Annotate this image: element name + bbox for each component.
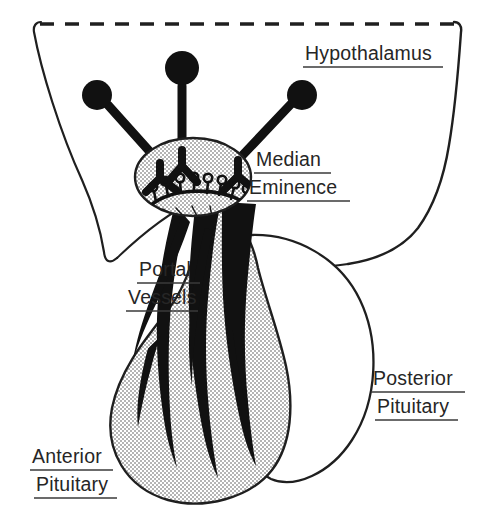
label-median-eminence: Median Eminence <box>247 148 350 201</box>
neuron-right-soma <box>287 80 317 110</box>
label-anterior-pituitary-line1: Anterior <box>32 445 102 467</box>
capillary-stalk-5 <box>207 182 208 193</box>
label-hypothalamus: Hypothalamus <box>303 42 443 67</box>
label-median-eminence-line2: Eminence <box>249 176 337 198</box>
pituitary-diagram: Hypothalamus Median Eminence Portal Vess… <box>0 0 490 529</box>
label-portal-vessels-line1: Portal <box>139 258 191 280</box>
label-posterior-pituitary-line1: Posterior <box>373 367 453 389</box>
label-hypothalamus-text: Hypothalamus <box>305 42 432 64</box>
neuron-center-soma <box>165 51 199 85</box>
neuron-somas <box>82 51 317 110</box>
neuron-left-soma <box>82 80 112 110</box>
label-median-eminence-line1: Median <box>256 148 321 170</box>
label-posterior-pituitary: Posterior Pituitary <box>371 367 465 420</box>
label-portal-vessels-line2: Vessels <box>128 286 197 308</box>
label-anterior-pituitary: Anterior Pituitary <box>30 445 117 498</box>
capillary-stalk-3 <box>180 182 181 193</box>
label-anterior-pituitary-line2: Pituitary <box>36 473 108 495</box>
label-posterior-pituitary-line2: Pituitary <box>377 395 449 417</box>
hypothalamus-left-wall <box>34 22 117 261</box>
